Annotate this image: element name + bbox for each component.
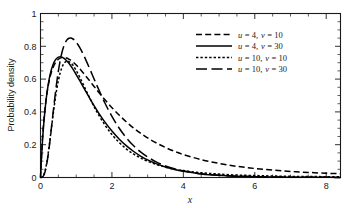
x-tick-label: 4 (181, 181, 186, 191)
y-tick-label: 0.4 (24, 107, 37, 117)
x-tick-label: 6 (252, 181, 257, 191)
x-tick-label: 2 (109, 181, 114, 191)
probability-density-plot: 02468 00.20.40.60.81 x Probability densi… (0, 0, 349, 208)
y-tick-label: 0.2 (24, 140, 37, 150)
x-axis-title: x (187, 194, 193, 205)
legend-label-u4-v30: u= 4,v= 30 (238, 41, 283, 51)
x-tick-label: 0 (38, 181, 43, 191)
y-tick-label: 0.8 (24, 42, 37, 52)
chart-figure: 02468 00.20.40.60.81 x Probability densi… (0, 0, 349, 208)
y-tick-label: 1 (31, 9, 36, 19)
legend-label-u4-v10: u= 4,v= 10 (238, 30, 283, 40)
y-tick-label: 0.6 (24, 74, 37, 84)
x-tick-label: 8 (324, 181, 329, 191)
y-axis-title: Probability density (6, 58, 16, 132)
y-tick-label: 0 (31, 173, 36, 183)
